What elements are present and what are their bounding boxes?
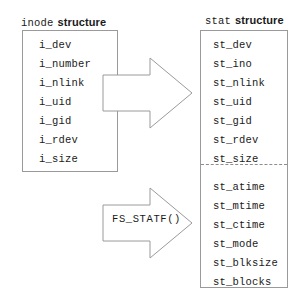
stat-field: st_ino xyxy=(213,55,287,74)
stat-field: st_rdev xyxy=(213,131,287,150)
inode-struct-name: inode xyxy=(21,17,54,29)
stat-field: st_dev xyxy=(213,36,287,55)
diagram-canvas: inodestructure i_dev i_number i_nlink i_… xyxy=(0,0,308,300)
inode-field: i_rdev xyxy=(39,131,117,150)
stat-field: st_size xyxy=(213,150,287,169)
arrow-shape xyxy=(103,58,192,128)
stat-field: st_ctime xyxy=(213,216,287,235)
stat-group-divider xyxy=(201,164,287,165)
stat-field: st_uid xyxy=(213,93,287,112)
stat-field: st_nlink xyxy=(213,74,287,93)
stat-field-list-group-2: st_atime st_mtime st_ctime st_mode st_bl… xyxy=(201,169,287,292)
mapping-arrow-top-icon xyxy=(103,58,193,129)
inode-field: i_dev xyxy=(39,36,117,55)
inode-struct-kind: structure xyxy=(58,16,107,28)
inode-field: i_size xyxy=(39,150,117,169)
stat-struct-name: stat xyxy=(205,15,231,27)
stat-struct-heading: statstructure xyxy=(205,11,284,27)
stat-field: st_mode xyxy=(213,235,287,254)
stat-struct-box: st_dev st_ino st_nlink st_uid st_gid st_… xyxy=(200,30,288,288)
stat-field: st_blocks xyxy=(213,273,287,292)
stat-struct-kind: structure xyxy=(235,14,284,26)
inode-struct-heading: inodestructure xyxy=(21,13,106,29)
stat-field: st_atime xyxy=(213,178,287,197)
stat-field: st_mtime xyxy=(213,197,287,216)
stat-field-list-group-1: st_dev st_ino st_nlink st_uid st_gid st_… xyxy=(201,31,287,169)
fs-statf-label: FS_STATF() xyxy=(112,213,181,225)
stat-field: st_blksize xyxy=(213,254,287,273)
stat-field: st_gid xyxy=(213,112,287,131)
